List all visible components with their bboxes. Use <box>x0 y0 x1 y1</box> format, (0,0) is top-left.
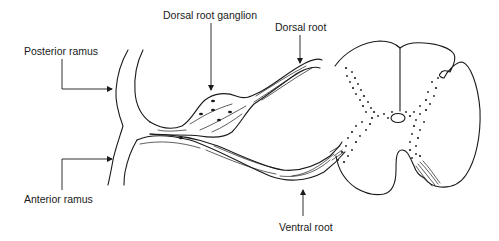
gray-matter-dot <box>425 99 427 101</box>
gray-matter-dot <box>383 113 385 115</box>
gray-matter-dot <box>347 155 349 157</box>
spinal-nerve-diagram: Posterior ramus Anterior ramus Dorsal ro… <box>0 0 499 241</box>
gray-matter-dot <box>411 157 413 159</box>
gray-matter-dot <box>345 145 347 147</box>
gray-matter-dot <box>415 119 417 121</box>
gray-matter-dot <box>363 95 365 97</box>
gray-matter-dot <box>405 111 407 113</box>
label-ventral-root: Ventral root <box>279 221 333 233</box>
gray-matter-dot <box>343 161 345 163</box>
gray-matter-dot <box>347 137 349 139</box>
ventral-root <box>137 134 345 180</box>
gray-matter-dot <box>357 83 359 85</box>
gray-matter-dot <box>365 129 367 131</box>
gray-matter-dot <box>427 91 429 93</box>
gray-matter-dot <box>351 71 353 73</box>
spinal-nerve-trunk <box>108 50 150 185</box>
gray-matter-dot <box>359 135 361 137</box>
gray-matter-dot <box>415 145 417 147</box>
label-dorsal-root-ganglion: Dorsal root ganglion <box>163 9 257 21</box>
gray-matter-dot <box>429 103 431 105</box>
gray-matter-dot <box>391 111 393 113</box>
gray-matter-dot <box>371 117 373 119</box>
gray-matter-dot <box>351 131 353 133</box>
gray-matter-dot <box>351 149 353 151</box>
posterior-ramus-leader-arrow <box>62 59 112 89</box>
gray-matter-dot <box>373 111 375 113</box>
gray-matter-dot <box>413 111 415 113</box>
gray-matter-dot <box>387 117 389 119</box>
gray-matter-dot <box>411 133 413 135</box>
ganglion-cell <box>211 109 215 111</box>
gray-matter-dot <box>346 75 348 77</box>
ganglion-cell <box>217 119 221 121</box>
dorsal-root-ganglion <box>150 59 322 139</box>
gray-matter-dot <box>370 107 372 109</box>
gray-matter-dot <box>409 149 411 151</box>
gray-matter-dot <box>419 105 421 107</box>
gray-matter-dot <box>352 87 354 89</box>
gray-matter-dot <box>367 101 369 103</box>
gray-matter-dot <box>437 77 439 79</box>
spinal-cord-cross-section <box>335 41 480 195</box>
gray-matter-dot <box>365 111 367 113</box>
central-canal <box>391 114 405 123</box>
gray-matter-dot <box>409 115 411 117</box>
gray-matter-dot <box>419 113 421 115</box>
gray-matter-dot <box>413 125 415 127</box>
gray-matter-dot <box>417 137 419 139</box>
gray-matter-dot <box>349 81 351 83</box>
gray-matter-dot <box>355 141 357 143</box>
gray-matter-dot <box>360 89 362 91</box>
gray-matter-dot <box>369 123 371 125</box>
gray-matter-dot <box>419 155 421 157</box>
gray-matter-dot <box>435 87 437 89</box>
gray-matter-dot <box>355 93 357 95</box>
gray-matter-dot <box>355 125 357 127</box>
gray-matter-dot <box>345 67 347 69</box>
ganglion-cell <box>199 113 203 115</box>
gray-matter-neurons <box>337 67 439 163</box>
gray-matter-dot <box>354 77 356 79</box>
gray-matter-dot <box>425 109 427 111</box>
label-dorsal-root: Dorsal root <box>275 21 326 33</box>
ganglion-cell <box>228 111 232 113</box>
gray-matter-dot <box>433 95 435 97</box>
gray-matter-dot <box>337 159 339 161</box>
gray-matter-dot <box>423 121 425 123</box>
ganglion-cell <box>211 100 215 102</box>
gray-matter-dot <box>419 129 421 131</box>
gray-matter-dot <box>431 81 433 83</box>
gray-matter-dot <box>409 141 411 143</box>
gray-matter-dot <box>361 121 363 123</box>
gray-matter-dot <box>359 99 361 101</box>
gray-matter-dot <box>341 151 343 153</box>
label-anterior-ramus: Anterior ramus <box>24 193 93 205</box>
gray-matter-dot <box>377 115 379 117</box>
label-posterior-ramus: Posterior ramus <box>24 45 98 57</box>
anterior-ramus-leader-arrow <box>62 159 112 190</box>
gray-matter-dot <box>415 153 417 155</box>
gray-matter-dot <box>362 105 364 107</box>
